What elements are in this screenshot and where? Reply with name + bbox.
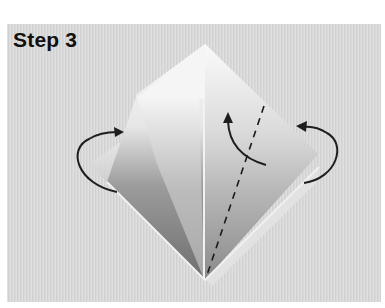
instruction-photo: Step 3	[7, 24, 381, 302]
paper-main-body	[107, 44, 319, 280]
origami-diagram	[7, 24, 381, 302]
